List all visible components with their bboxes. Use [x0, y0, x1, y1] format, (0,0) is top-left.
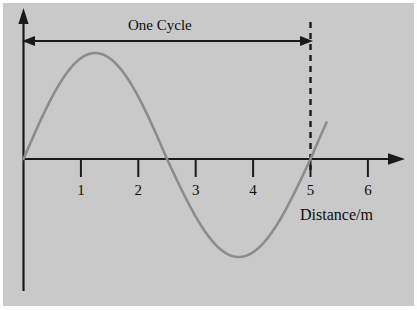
x-tick-label-3: 3 — [184, 183, 208, 198]
one-cycle-label: One Cycle — [128, 18, 192, 33]
x-tick-label-6: 6 — [356, 183, 380, 198]
y-axis-arrowhead — [18, 8, 28, 24]
sine-wave-curve — [24, 53, 327, 257]
x-tick-label-5: 5 — [299, 183, 323, 198]
x-tick-label-2: 2 — [126, 183, 150, 198]
x-tick-label-1: 1 — [69, 183, 93, 198]
wave-diagram-figure: 1 2 3 4 5 6 One Cycle Distance/m — [0, 0, 417, 310]
one-cycle-span-arrow — [22, 36, 313, 46]
x-axis-ticks — [81, 159, 368, 177]
x-tick-label-4: 4 — [241, 183, 265, 198]
x-axis-title: Distance/m — [300, 207, 373, 223]
plot-canvas — [0, 0, 417, 310]
x-axis-arrowhead — [388, 153, 405, 164]
